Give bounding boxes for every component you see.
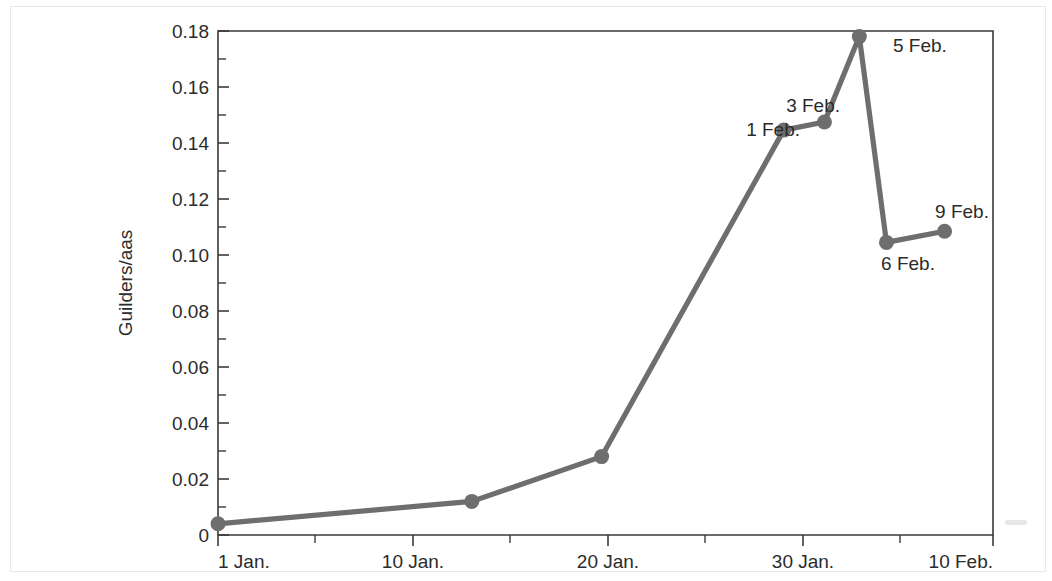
data-point-3feb [817,115,832,130]
data-point-6feb [879,235,894,250]
y-tick-label-0: 0 [198,525,209,546]
x-axis-major-ticks [218,535,993,546]
x-tick-label-3: 30 Jan. [772,551,834,572]
point-label-6feb: 6 Feb. [881,253,935,274]
point-label-5feb: 5 Feb. [893,35,947,56]
data-series-group [211,29,953,531]
x-tick-label-0: 1 Jan. [218,551,270,572]
data-point-1jan [211,516,226,531]
point-annotation-group: 1 Feb.3 Feb.5 Feb.6 Feb.9 Feb. [746,35,989,274]
y-tick-label-8: 0.16 [172,77,209,98]
y-tick-label-7: 0.14 [172,133,209,154]
chart-canvas: 0 0.02 0.04 0.06 0.08 0.10 0.12 0.14 0.1… [0,0,1052,581]
y-tick-label-6: 0.12 [172,189,209,210]
x-axis-tick-labels: 1 Jan. 10 Jan. 20 Jan. 30 Jan. 10 Feb. [218,551,993,572]
y-axis-minor-ticks [218,59,226,507]
data-point-20jan [594,449,609,464]
tulip-price-chart-figure: 0 0.02 0.04 0.06 0.08 0.10 0.12 0.14 0.1… [0,0,1052,581]
y-tick-label-9: 0.18 [172,21,209,42]
point-label-3feb: 3 Feb. [786,95,840,116]
x-tick-label-2: 20 Jan. [577,551,639,572]
scan-artifact [1005,520,1027,525]
y-tick-label-1: 0.02 [172,469,209,490]
point-label-9feb: 9 Feb. [935,201,989,222]
y-axis-tick-labels: 0 0.02 0.04 0.06 0.08 0.10 0.12 0.14 0.1… [172,21,209,546]
y-tick-label-4: 0.08 [172,301,209,322]
y-tick-label-2: 0.04 [172,413,209,434]
y-tick-label-3: 0.06 [172,357,209,378]
data-point-14jan [464,494,479,509]
y-axis-title: Guilders/aas [115,230,136,337]
point-label-1feb: 1 Feb. [746,119,800,140]
data-point-9feb [937,224,952,239]
y-tick-label-5: 0.10 [172,245,209,266]
data-point-5feb [852,29,867,44]
x-tick-label-1: 10 Jan. [382,551,444,572]
x-tick-label-4: 10 Feb. [929,551,993,572]
y-axis-title-group: Guilders/aas [115,230,136,337]
price-series-markers [211,29,953,531]
